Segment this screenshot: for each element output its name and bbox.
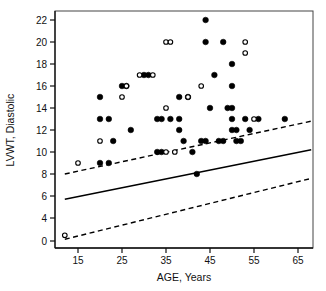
x-tick-label-35: 35 (160, 255, 172, 266)
data-point (98, 139, 103, 144)
data-point (159, 116, 165, 122)
x-axis-tick-labels: 152535455565 (72, 255, 304, 266)
data-point (128, 127, 134, 133)
data-point (194, 171, 200, 177)
data-point (190, 149, 196, 155)
y-tick-label-4: 4 (41, 213, 47, 224)
plot-canvas: 046810121416182022 152535455565 AGE, Yea… (0, 0, 326, 291)
data-point (76, 161, 81, 166)
y-tick-label-0: 0 (41, 236, 47, 247)
y-tick-label-6: 6 (41, 191, 47, 202)
data-point (181, 138, 187, 144)
data-point (176, 116, 182, 122)
data-point (199, 84, 204, 89)
scatter-chart-figure: 046810121416182022 152535455565 AGE, Yea… (0, 0, 326, 291)
x-tick-label-45: 45 (204, 255, 216, 266)
y-axis-title: LVWT, Diastolic (4, 94, 16, 167)
x-axis-title: AGE, Years (157, 271, 211, 283)
data-point (203, 138, 209, 144)
y-tick-label-22: 22 (36, 15, 48, 26)
data-point (229, 105, 235, 111)
data-point (151, 73, 156, 78)
data-point (106, 160, 112, 166)
regression-line (65, 150, 311, 200)
data-point (97, 116, 103, 122)
data-point (164, 106, 169, 111)
data-point (220, 39, 226, 45)
data-point (97, 160, 103, 166)
data-point (63, 233, 68, 238)
data-point (229, 61, 235, 67)
x-tick-label-65: 65 (292, 255, 304, 266)
data-point (97, 94, 103, 100)
data-point (212, 72, 218, 78)
y-tick-label-12: 12 (36, 125, 48, 136)
y-tick-label-8: 8 (41, 169, 47, 180)
upper-confidence-band (65, 121, 311, 174)
data-point (234, 127, 240, 133)
data-point (207, 105, 213, 111)
y-tick-label-14: 14 (36, 103, 48, 114)
data-point (203, 39, 209, 45)
x-tick-label-15: 15 (72, 255, 84, 266)
data-point (106, 116, 112, 122)
data-point (164, 150, 169, 155)
x-tick-label-25: 25 (116, 255, 128, 266)
data-point (220, 138, 226, 144)
x-tick-label-55: 55 (248, 255, 260, 266)
filled-circle-points (97, 17, 287, 177)
data-point (110, 138, 116, 144)
data-point (282, 116, 288, 122)
data-point (247, 127, 253, 133)
data-point (173, 150, 178, 155)
data-point (238, 138, 244, 144)
data-point (120, 95, 125, 100)
data-point (242, 116, 248, 122)
data-point (186, 95, 191, 100)
y-axis-tick-labels: 046810121416182022 (36, 15, 48, 247)
y-tick-label-16: 16 (36, 81, 48, 92)
data-point (168, 40, 173, 45)
data-point (252, 117, 257, 122)
data-point (168, 116, 174, 122)
data-point (243, 51, 248, 56)
x-axis-ticks (78, 248, 298, 253)
y-tick-label-10: 10 (36, 147, 48, 158)
lower-confidence-band (65, 178, 311, 239)
data-point (124, 84, 129, 89)
data-point (229, 83, 235, 89)
y-tick-label-18: 18 (36, 59, 48, 70)
data-point (203, 17, 209, 23)
data-point (243, 40, 248, 45)
data-point (137, 73, 142, 78)
data-point (176, 94, 182, 100)
y-tick-label-20: 20 (36, 37, 48, 48)
y-axis-ticks (50, 20, 55, 241)
data-point (176, 127, 182, 133)
data-point (229, 116, 235, 122)
